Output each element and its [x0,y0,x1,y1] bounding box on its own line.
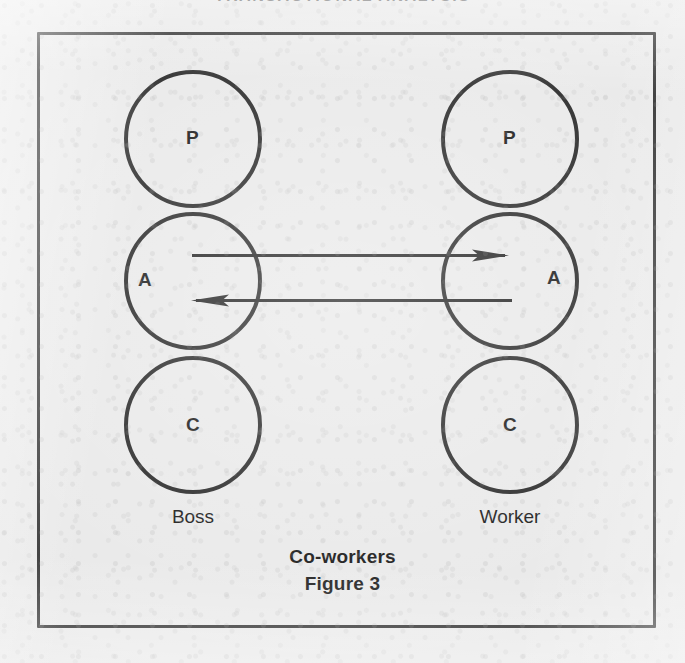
figure-page: TRANSACTIONAL ANALYSIS P A C Boss P A C … [0,0,685,663]
person-label-boss: Boss [133,506,253,528]
ego-state-label-boss-child: C [186,414,200,436]
figure-caption-title: Co-workers [0,546,685,568]
ego-state-label-boss-parent: P [186,127,199,149]
person-label-worker: Worker [450,506,570,528]
running-head: TRANSACTIONAL ANALYSIS [0,0,685,5]
figure-caption-number: Figure 3 [0,573,685,595]
ego-state-label-worker-adult: A [547,267,561,289]
ego-state-label-worker-parent: P [503,127,516,149]
ego-state-label-worker-child: C [503,414,517,436]
ego-state-label-boss-adult: A [138,269,152,291]
